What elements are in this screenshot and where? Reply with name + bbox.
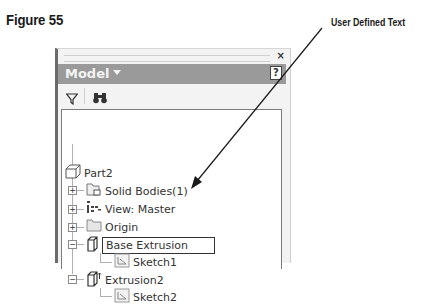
toolbar-separator (84, 88, 85, 104)
panel-grip[interactable] (64, 55, 270, 62)
tree-connector (76, 190, 84, 191)
panel-toolbar (58, 86, 286, 106)
callout-label: User Defined Text (331, 17, 405, 28)
expand-button[interactable]: + (68, 205, 77, 214)
folder-icon (86, 218, 102, 236)
tree-item-sketch1[interactable]: Sketch1 (114, 253, 177, 271)
tree-item-label: Sketch1 (133, 256, 177, 269)
extrusion-icon (86, 271, 102, 290)
view-rep-icon (86, 200, 102, 218)
funnel-icon[interactable] (66, 90, 78, 109)
tree-item-solid-bodies[interactable]: Solid Bodies(1) (86, 182, 188, 200)
tree-connector (76, 209, 84, 210)
tree-item-part2[interactable]: Part2 (65, 164, 113, 182)
tree-item-view-master[interactable]: View: Master (86, 200, 175, 218)
panel-title: Model (65, 66, 109, 81)
tree-item-label: Origin (105, 221, 138, 234)
solid-bodies-folder-icon (86, 182, 102, 200)
sketch-icon (114, 253, 130, 271)
tree-item-label: View: Master (105, 203, 175, 216)
binoculars-icon[interactable] (93, 89, 107, 108)
help-button[interactable]: ? (270, 66, 282, 80)
rename-input[interactable]: Base Extrusion (102, 237, 215, 254)
tree-item-sketch2[interactable]: Sketch2 (114, 288, 177, 306)
model-browser-panel: × Model ? + + + − − (55, 48, 291, 263)
tree-connector (100, 253, 101, 262)
tree-item-extrusion2[interactable]: Extrusion2 (86, 271, 164, 289)
tree-item-origin[interactable]: Origin (86, 218, 138, 236)
sketch-icon (114, 288, 130, 306)
panel-titlebar[interactable]: Model ? (58, 64, 286, 84)
tree-connector (76, 244, 84, 245)
browser-tree: + + + − − Part2 Solid Bodies(1) View: Ma… (61, 109, 282, 269)
expand-button[interactable]: + (68, 186, 77, 195)
tree-item-label: Sketch2 (133, 291, 177, 304)
figure-title: Figure 55 (6, 11, 63, 28)
tree-connector (76, 227, 84, 228)
collapse-button[interactable]: − (68, 275, 77, 284)
tree-item-label: Extrusion2 (105, 274, 164, 287)
tree-item-base-extrusion[interactable]: Base Extrusion (86, 236, 215, 254)
collapse-button[interactable]: − (68, 240, 77, 249)
part-cube-icon (65, 164, 81, 182)
extrusion-icon (86, 236, 100, 255)
close-icon[interactable]: × (277, 51, 285, 61)
chevron-down-icon (113, 70, 121, 75)
tree-connector (100, 262, 112, 263)
model-dropdown[interactable]: Model (65, 66, 121, 81)
tree-item-label: Part2 (84, 167, 113, 180)
expand-button[interactable]: + (68, 223, 77, 232)
tree-connector (76, 279, 84, 280)
tree-connector (100, 296, 112, 297)
tree-item-label: Solid Bodies(1) (105, 185, 188, 198)
